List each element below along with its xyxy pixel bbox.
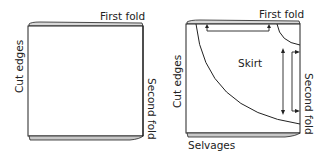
left-first-fold-label: First fold	[100, 11, 145, 22]
right-second-fold-label: Second fold	[304, 73, 315, 135]
left-folded-fabric	[28, 22, 143, 140]
selvages-label: Selvages	[188, 140, 235, 151]
right-folded-fabric	[186, 20, 300, 137]
left-second-fold-label: Second fold	[147, 78, 158, 140]
fabric-folding-diagram: First fold Cut edges Second fold First f…	[0, 0, 317, 153]
left-cut-edges-label: Cut edges	[14, 40, 25, 93]
skirt-label: Skirt	[238, 58, 262, 69]
right-first-fold-label: First fold	[259, 9, 304, 20]
diagram-svg	[0, 0, 317, 153]
right-cut-edges-label: Cut edges	[172, 55, 183, 108]
